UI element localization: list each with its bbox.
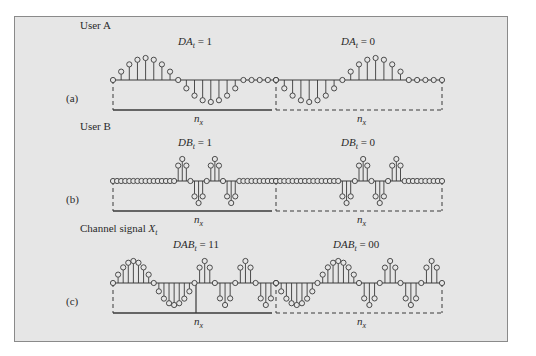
- sample-point: [298, 98, 303, 103]
- span-label-right: nx: [357, 213, 367, 228]
- left-equation: DBt = 1: [177, 136, 212, 151]
- sample-point: [184, 163, 189, 168]
- sample-point: [382, 265, 387, 270]
- left-equation: DAt = 1: [177, 35, 212, 50]
- sample-point: [439, 77, 444, 82]
- sample-point: [320, 272, 325, 277]
- sample-point: [282, 86, 287, 91]
- sample-point: [131, 258, 136, 263]
- sample-point: [243, 258, 248, 263]
- sample-point: [196, 200, 201, 205]
- sample-point: [182, 296, 187, 301]
- sample-point: [373, 194, 378, 199]
- span-label-right: nx: [357, 315, 367, 330]
- sample-point: [187, 289, 192, 294]
- sample-point: [200, 98, 205, 103]
- sample-point: [346, 265, 351, 270]
- sample-point: [253, 280, 258, 285]
- sample-point: [151, 280, 156, 285]
- sample-point: [403, 296, 408, 301]
- sample-point: [217, 296, 222, 301]
- sample-point: [143, 55, 148, 60]
- sample-point: [325, 265, 330, 270]
- panel-label: (a): [66, 92, 79, 105]
- sample-point: [180, 156, 185, 161]
- sample-point: [177, 301, 182, 306]
- sample-point: [344, 200, 349, 205]
- sample-point: [248, 265, 253, 270]
- sample-point: [336, 178, 341, 183]
- sample-point: [439, 178, 444, 183]
- sample-point: [394, 156, 399, 161]
- sample-point: [202, 258, 207, 263]
- sample-point: [415, 77, 420, 82]
- sample-point: [307, 99, 312, 104]
- sample-point: [127, 62, 132, 67]
- sample-point: [299, 301, 304, 306]
- sample-point: [336, 258, 341, 263]
- sample-point: [176, 163, 181, 168]
- sample-point: [429, 258, 434, 263]
- sample-point: [216, 98, 221, 103]
- sample-point: [192, 194, 197, 199]
- sample-point: [361, 156, 366, 161]
- sample-point: [423, 77, 428, 82]
- sample-point: [110, 77, 115, 82]
- sample-point: [229, 200, 234, 205]
- sample-point: [356, 163, 361, 168]
- sample-point: [225, 194, 230, 199]
- sample-point: [172, 178, 177, 183]
- span-label-left: nx: [194, 112, 204, 127]
- sample-point: [151, 57, 156, 62]
- sample-point: [369, 178, 374, 183]
- sample-point: [212, 280, 217, 285]
- sample-point: [141, 265, 146, 270]
- sample-point: [188, 178, 193, 183]
- panel-a: User ADAt = 1DAt = 0(a)nxnx: [66, 19, 445, 127]
- sample-point: [208, 99, 213, 104]
- panel-label: (c): [66, 295, 79, 308]
- sample-point: [340, 77, 345, 82]
- panel-c: Channel signal XtDABt = 11DABt = 00(c)nx…: [66, 222, 445, 330]
- sample-point: [373, 55, 378, 60]
- sample-point: [398, 280, 403, 285]
- sample-point: [294, 302, 299, 307]
- sample-point: [431, 77, 436, 82]
- sample-point: [204, 178, 209, 183]
- sample-point: [315, 280, 320, 285]
- sample-point: [362, 296, 367, 301]
- sample-point: [419, 280, 424, 285]
- sample-point: [225, 93, 230, 98]
- sample-point: [228, 296, 233, 301]
- sample-point: [341, 260, 346, 265]
- sample-point: [381, 194, 386, 199]
- sample-point: [156, 289, 161, 294]
- sample-point: [136, 260, 141, 265]
- sample-point: [305, 296, 310, 301]
- sample-point: [385, 178, 390, 183]
- sample-point: [192, 280, 197, 285]
- sample-point: [393, 265, 398, 270]
- span-label-left: nx: [194, 213, 204, 228]
- signal-diagram: User ADAt = 1DAt = 0(a)nxnxUser BDBt = 1…: [0, 0, 536, 356]
- sample-point: [258, 296, 263, 301]
- sample-point: [332, 86, 337, 91]
- panel-label: (b): [66, 193, 79, 206]
- sample-point: [434, 265, 439, 270]
- sample-point: [406, 77, 411, 82]
- sample-point: [367, 302, 372, 307]
- sample-point: [135, 57, 140, 62]
- sample-point: [352, 178, 357, 183]
- sample-point: [390, 163, 395, 168]
- sample-point: [263, 302, 268, 307]
- panel-title: User B: [80, 120, 111, 132]
- panel-b: User BDBt = 1DBt = 0(b)nxnx: [66, 120, 445, 228]
- sample-point: [390, 62, 395, 67]
- sample-point: [220, 178, 225, 183]
- sample-point: [166, 301, 171, 306]
- sample-point: [340, 194, 345, 199]
- sample-point: [184, 86, 189, 91]
- sample-point: [212, 156, 217, 161]
- sample-point: [216, 163, 221, 168]
- sample-point: [348, 69, 353, 74]
